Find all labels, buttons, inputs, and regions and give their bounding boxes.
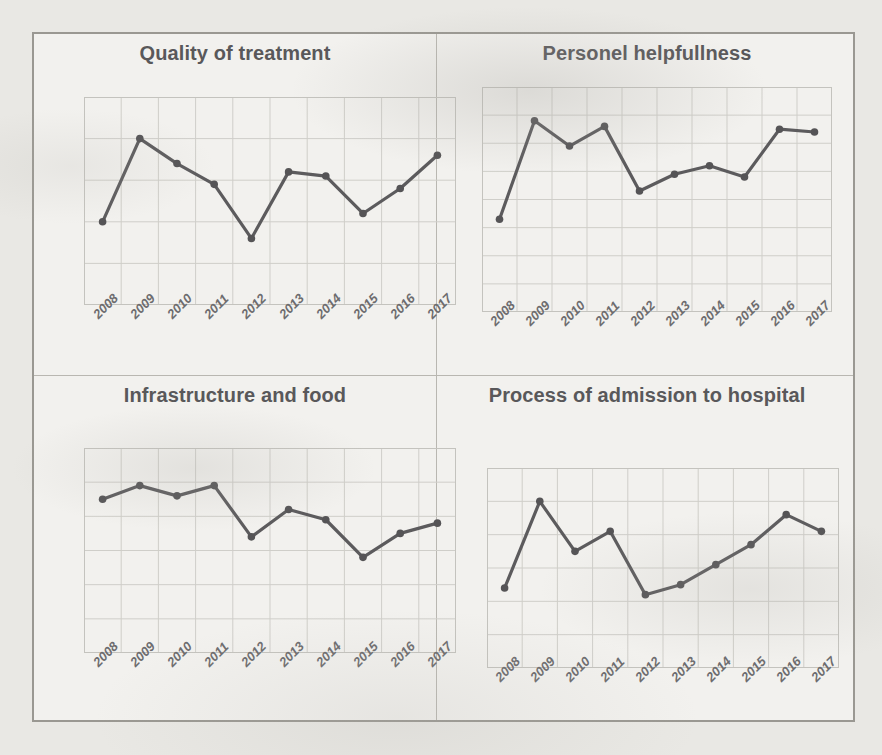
chart-panel-process-of-admission-to-hospital: Process of admission to hospital 2008200…	[437, 376, 857, 724]
plot-area-process-of-admission-to-hospital	[487, 468, 839, 668]
plot-area-quality-of-treatment	[84, 97, 456, 305]
line-chart-quality-of-treatment	[84, 97, 456, 305]
x-axis-labels-quality-of-treatment: 2008200920102011201220132014201520162017	[84, 307, 456, 363]
page-frame: Quality of treatment 2008200920102011201…	[32, 32, 855, 722]
x-axis-labels-personel-helpfullness: 2008200920102011201220132014201520162017	[482, 314, 832, 370]
chart-panel-infrastructure-and-food: Infrastructure and food 2008200920102011…	[34, 376, 436, 724]
chart-title-personel-helpfullness: Personel helpfullness	[437, 42, 857, 66]
chart-title-quality-of-treatment: Quality of treatment	[34, 42, 436, 66]
plot-area-infrastructure-and-food	[84, 448, 456, 653]
chart-panel-personel-helpfullness: Personel helpfullness 200820092010201120…	[437, 34, 857, 375]
line-chart-infrastructure-and-food	[84, 448, 456, 653]
chart-title-infrastructure-and-food: Infrastructure and food	[34, 384, 436, 408]
line-chart-personel-helpfullness	[482, 87, 832, 312]
chart-panel-quality-of-treatment: Quality of treatment 2008200920102011201…	[34, 34, 436, 375]
chart-title-process-of-admission-to-hospital: Process of admission to hospital	[437, 384, 857, 408]
x-axis-labels-process-of-admission-to-hospital: 2008200920102011201220132014201520162017	[487, 670, 839, 726]
line-chart-process-of-admission-to-hospital	[487, 468, 839, 668]
plot-area-personel-helpfullness	[482, 87, 832, 312]
x-axis-labels-infrastructure-and-food: 2008200920102011201220132014201520162017	[84, 655, 456, 711]
